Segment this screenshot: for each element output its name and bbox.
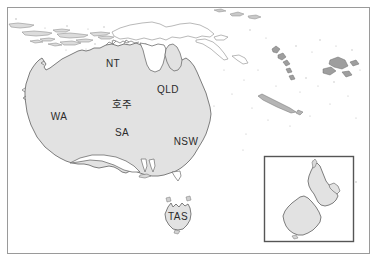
- state-label-nt: NT: [106, 58, 120, 69]
- map-canvas: NT QLD WA SA NSW TAS 호주: [0, 0, 378, 262]
- country-label-australia: 호주: [112, 98, 132, 110]
- state-label-wa: WA: [51, 111, 68, 122]
- new-zealand-inset: [265, 157, 354, 242]
- map-figure: NT QLD WA SA NSW TAS 호주: [0, 0, 378, 262]
- state-label-nsw: NSW: [174, 136, 199, 147]
- state-label-sa: SA: [115, 127, 129, 138]
- inset-dot: [312, 160, 313, 161]
- state-label-qld: QLD: [157, 84, 179, 95]
- state-label-tas: TAS: [168, 211, 188, 222]
